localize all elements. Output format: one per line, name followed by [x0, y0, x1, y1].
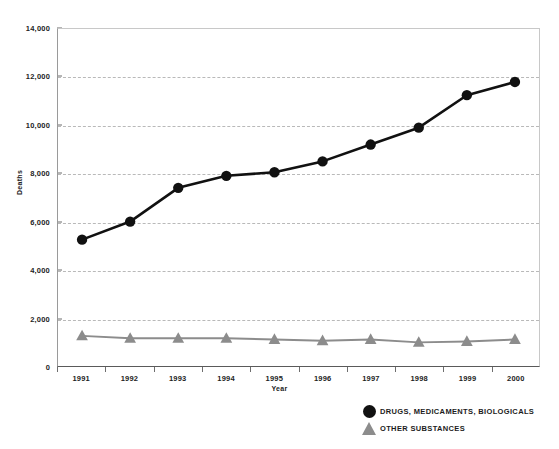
- series-layer: [58, 29, 539, 366]
- legend-swatch: [363, 405, 376, 418]
- x-axis-tick-label: 1993: [169, 374, 187, 383]
- data-point-circle: [365, 139, 375, 149]
- legend-item[interactable]: DRUGS, MEDICAMENTS, BIOLOGICALS: [358, 403, 534, 420]
- chart-legend: DRUGS, MEDICAMENTS, BIOLOGICALSOTHER SUB…: [358, 403, 534, 437]
- y-axis-tick-label: 8,000: [30, 169, 50, 178]
- y-axis-tick-label: 6,000: [30, 217, 50, 226]
- x-axis-tick-mark: [299, 367, 300, 372]
- data-point-triangle: [365, 333, 377, 344]
- x-axis-tick-mark: [347, 367, 348, 372]
- x-axis-tick-label: 1999: [459, 374, 477, 383]
- data-point-triangle: [76, 330, 88, 341]
- x-axis-tick-label: 1997: [362, 374, 380, 383]
- series-other-substances: [76, 330, 521, 347]
- y-axis-tick-label: 4,000: [30, 266, 50, 275]
- legend-item-label: OTHER SUBSTANCES: [380, 424, 465, 433]
- data-point-circle: [77, 234, 87, 244]
- x-axis-tick-mark: [443, 367, 444, 372]
- series-line: [82, 82, 515, 240]
- x-axis-title: Year: [0, 385, 559, 392]
- y-axis-title: Deaths: [16, 170, 23, 195]
- plot-area: [57, 28, 540, 367]
- circle-marker-icon: [358, 405, 380, 418]
- x-axis-tick-mark: [492, 367, 493, 372]
- x-axis-tick-label: 1996: [314, 374, 332, 383]
- data-point-circle: [510, 77, 520, 87]
- y-axis-tick-label: 14,000: [26, 24, 50, 33]
- x-axis-tick-mark: [105, 367, 106, 372]
- legend-swatch: [362, 422, 376, 435]
- data-point-triangle: [509, 333, 521, 344]
- x-axis-tick-mark: [250, 367, 251, 372]
- x-axis-tick-mark: [202, 367, 203, 372]
- y-axis-tick-labels: 02,0004,0006,0008,00010,00012,00014,000: [0, 28, 50, 367]
- x-axis-tick-label: 2000: [507, 374, 525, 383]
- y-axis-tick-label: 2,000: [30, 314, 50, 323]
- x-axis-tick-mark: [154, 367, 155, 372]
- data-point-circle: [414, 123, 424, 133]
- x-axis-tick-label: 1994: [217, 374, 235, 383]
- series-line: [82, 336, 515, 342]
- data-point-circle: [462, 90, 472, 100]
- series-drugs-medicaments-biologicals: [77, 77, 520, 245]
- y-axis-tick-label: 12,000: [26, 72, 50, 81]
- data-point-circle: [125, 216, 135, 226]
- x-axis-tick-mark: [395, 367, 396, 372]
- data-point-circle: [221, 171, 231, 181]
- y-axis-tick-label: 0: [46, 363, 50, 372]
- x-axis-tick-label: 1992: [121, 374, 139, 383]
- x-axis-tick-label: 1998: [411, 374, 429, 383]
- x-axis-tick-mark: [57, 367, 58, 372]
- triangle-marker-icon: [358, 422, 380, 435]
- x-axis-tick-label: 1991: [72, 374, 90, 383]
- x-axis-tick-label: 1995: [266, 374, 284, 383]
- data-point-circle: [173, 183, 183, 193]
- data-point-circle: [317, 156, 327, 166]
- chart-page: 02,0004,0006,0008,00010,00012,00014,000 …: [0, 0, 559, 449]
- y-axis-tick-label: 10,000: [26, 120, 50, 129]
- data-point-circle: [269, 167, 279, 177]
- legend-item[interactable]: OTHER SUBSTANCES: [358, 420, 534, 437]
- legend-item-label: DRUGS, MEDICAMENTS, BIOLOGICALS: [380, 407, 534, 416]
